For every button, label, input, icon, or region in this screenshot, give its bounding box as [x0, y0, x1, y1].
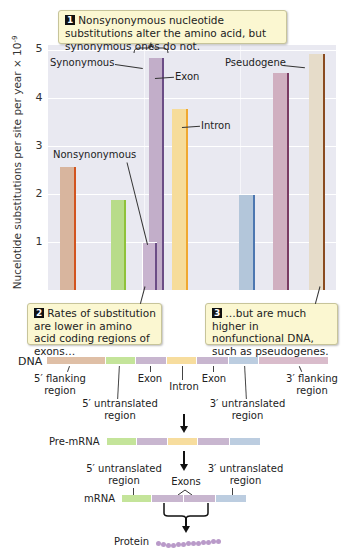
mrna-segment-5-utr [122, 495, 151, 502]
pre-mrna-segment-intron [168, 438, 197, 445]
mrna-label-exons: Exons [169, 476, 203, 488]
mrna-label-3-utr: 3′ untranslatedregion [203, 463, 288, 487]
y-tick-3: 3 [34, 139, 44, 152]
dna-label-3-flanking: 3′ flankingregion [282, 373, 342, 397]
gridline-4 [48, 98, 336, 99]
tick [67, 366, 70, 372]
tick [182, 366, 183, 380]
label-nonsynonymous: Nonsynonymous [53, 149, 136, 160]
dna-label-exon-1: Exon [135, 373, 165, 385]
y-axis-label: Nucelotide substitutions per site per ye… [11, 39, 24, 289]
pre-mrna-segment-5-utr [107, 438, 136, 445]
arrow-down-icon [180, 426, 188, 433]
dna-segment-exon-2 [197, 357, 228, 364]
tick [232, 488, 233, 495]
dna-label-5-flanking: 5′ flankingregion [30, 373, 90, 397]
tick [213, 366, 214, 372]
mrna-segment-exon-1 [152, 495, 183, 502]
dna-segment-5-flanking [47, 357, 105, 364]
bar-3-utr [239, 195, 255, 290]
mrna-segment-exon-2 [184, 495, 215, 502]
pre-mrna-segment-exon-1 [137, 438, 167, 445]
arrow-down-icon [182, 526, 190, 533]
protein-bead-chain-icon [156, 538, 221, 548]
bar-3-flanking [273, 73, 289, 290]
gridline-3 [48, 146, 336, 147]
dna-segment-3-flanking [259, 357, 328, 364]
label-exon: Exon [175, 71, 199, 82]
tick [299, 366, 302, 372]
tick [150, 366, 151, 372]
label-synonymous: Synonymous [50, 57, 114, 68]
tick [244, 366, 247, 399]
y-tick-4: 4 [34, 91, 44, 104]
tick [133, 488, 134, 495]
mrna-label: mRNA [84, 493, 115, 504]
bar-5-utr [111, 200, 126, 290]
tick [117, 366, 120, 399]
callout-text: …but are much higher in nonfunctional DN… [212, 307, 329, 357]
pre-mrna-label: Pre-mRNA [49, 436, 100, 447]
gridline-1 [48, 242, 336, 243]
pre-mrna-segment-exon-2 [198, 438, 229, 445]
pre-mrna-segment-3-utr [230, 438, 260, 445]
dna-segment-intron [167, 357, 196, 364]
dna-segment-exon-1 [136, 357, 166, 364]
y-tick-5: 5 [34, 42, 44, 55]
pre-mrna-strip [107, 438, 260, 445]
label-pseudogene: Pseudogene [225, 57, 286, 68]
callout-1: 1Nonsynonymous nucleotide substitutions … [58, 10, 287, 44]
dna-label-3-utr: 3′ untranslatedregion [205, 398, 290, 422]
dna-label-5-utr: 5′ untranslatedregion [80, 398, 160, 422]
dna-segment-3-utr [229, 357, 258, 364]
arrow-shaft [183, 451, 185, 465]
protein-label: Protein [114, 536, 149, 547]
gridline-2 [48, 194, 336, 195]
bar-exon-nonsynonymous [142, 242, 157, 290]
bar-5-flanking [60, 167, 76, 290]
label-intron: Intron [201, 120, 231, 131]
callout-number: 3 [212, 308, 222, 318]
y-tick-2: 2 [34, 187, 44, 200]
mrna-strip [122, 495, 246, 502]
mrna-segment-3-utr [216, 495, 246, 502]
bar-intron [172, 109, 188, 290]
callout-3: 3…but are much higher in nonfunctional D… [205, 303, 338, 345]
dna-segment-5-utr [106, 357, 135, 364]
arrow-down-icon [180, 464, 188, 471]
dna-label: DNA [18, 355, 42, 368]
dna-label-exon-2: Exon [199, 373, 229, 385]
dna-strip [47, 357, 328, 364]
callout-number: 1 [65, 15, 75, 25]
callout-text: Rates of substitution are lower in amino… [34, 307, 156, 357]
dna-label-intron: Intron [168, 381, 200, 393]
y-tick-1: 1 [34, 235, 44, 248]
callout-2: 2Rates of substitution are lower in amin… [27, 303, 162, 345]
mrna-label-5-utr: 5′ untranslatedregion [84, 463, 164, 487]
callout-number: 2 [34, 308, 44, 318]
bar-pseudogene [309, 54, 325, 290]
